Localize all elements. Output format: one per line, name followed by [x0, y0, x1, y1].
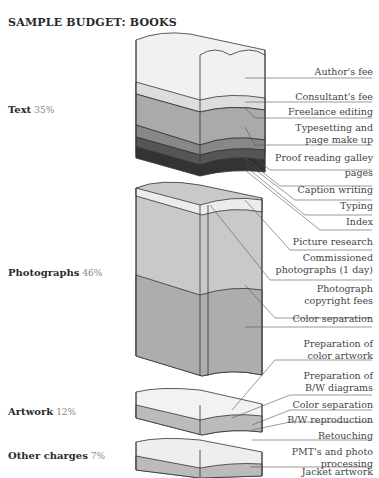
label-color-separation-photos: Color separation	[293, 313, 373, 325]
label-bw-reproduction: B/W reproduction	[287, 414, 373, 426]
label-bw-diagrams: B/W diagrams	[305, 382, 373, 394]
label-prep-color: Preparation of	[304, 338, 373, 350]
label-pages: pages	[345, 167, 373, 179]
label-caption-writing: Caption writing	[298, 184, 374, 196]
label-authors-fee: Author's fee	[315, 66, 373, 78]
label-jacket-artwork: Jacket artwork	[302, 466, 373, 478]
label-freelance-editing: Freelance editing	[288, 106, 373, 118]
label-commissioned-2: photographs (1 day)	[276, 264, 373, 276]
label-typing: Typing	[340, 200, 373, 212]
label-prep-bw: Preparation of	[304, 370, 373, 382]
label-index: Index	[346, 216, 373, 228]
label-typesetting: Typesetting and	[295, 122, 373, 134]
photographs-block	[136, 182, 262, 376]
label-color-artwork: color artwork	[307, 350, 373, 362]
label-proof-reading: Proof reading galley	[275, 152, 373, 164]
label-color-separation-art: Color separation	[293, 399, 373, 411]
label-page-make-up: page make up	[305, 134, 373, 146]
label-pmts: PMT's and photo	[292, 446, 373, 458]
label-copyright-fees: copyright fees	[304, 295, 373, 307]
label-consultants-fee: Consultant's fee	[295, 91, 373, 103]
label-picture-research: Picture research	[293, 236, 373, 248]
other-charges-block	[136, 438, 262, 478]
label-commissioned: Commissioned	[303, 252, 373, 264]
label-photograph: Photograph	[317, 283, 373, 295]
label-retouching: Retouching	[318, 430, 373, 442]
artwork-block	[136, 388, 262, 435]
text-block	[136, 33, 265, 176]
